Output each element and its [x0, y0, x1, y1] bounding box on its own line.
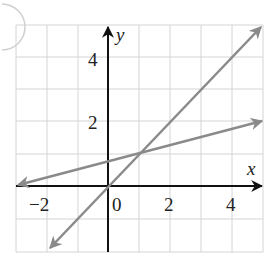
- y-axis-label: y: [114, 24, 125, 45]
- y-tick-2: 2: [88, 112, 98, 133]
- decorative-arc: [2, 4, 25, 50]
- line-y-equals-quarter-x: [18, 121, 262, 185]
- x-tick-neg2: −2: [29, 194, 49, 215]
- x-tick-4: 4: [226, 194, 236, 215]
- x-tick-0: 0: [112, 194, 122, 215]
- x-tick-2: 2: [164, 194, 174, 215]
- y-tick-4: 4: [88, 49, 98, 70]
- grid: [16, 25, 263, 252]
- x-axis-label: x: [246, 158, 256, 179]
- coordinate-plane: y x −2 0 2 4 2 4: [0, 0, 277, 258]
